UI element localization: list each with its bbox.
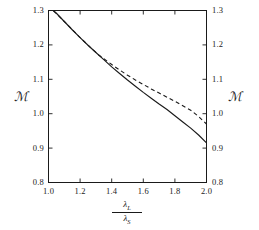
lambda-subscript-S: S <box>127 217 130 224</box>
x-axis-numerator: λL <box>112 200 142 212</box>
x-tick-label: 1.2 <box>67 186 93 196</box>
x-tick-label: 1.8 <box>162 186 188 196</box>
plot-figure: 0.80.91.01.11.21.30.80.91.01.11.21.31.01… <box>0 0 259 230</box>
curve-dashed <box>53 11 206 125</box>
y-axis-title-right: ℳ <box>228 89 242 105</box>
y-tick-label-left: 1.1 <box>18 74 44 84</box>
y-tick-label-right: 1.2 <box>212 39 238 49</box>
y-tick-label-left: 1.2 <box>18 39 44 49</box>
x-axis-denominator: λS <box>112 214 142 226</box>
x-tick-label: 1.0 <box>36 186 62 196</box>
y-tick-label-left: 0.9 <box>18 143 44 153</box>
lambda-subscript-L: L <box>127 204 131 211</box>
y-tick-label-right: 1.0 <box>212 108 238 118</box>
x-tick-label: 1.4 <box>99 186 125 196</box>
y-axis-title-left: ℳ <box>14 89 28 105</box>
x-axis-title: λLλS <box>112 200 142 225</box>
y-tick-label-right: 0.9 <box>212 143 238 153</box>
y-tick-label-left: 1.3 <box>18 5 44 15</box>
y-tick-label-right: 1.3 <box>212 5 238 15</box>
x-tick-label: 1.6 <box>130 186 156 196</box>
plot-frame <box>49 11 207 183</box>
y-tick-label-right: 1.1 <box>212 74 238 84</box>
y-tick-label-left: 1.0 <box>18 108 44 118</box>
x-tick-label: 2.0 <box>194 186 220 196</box>
